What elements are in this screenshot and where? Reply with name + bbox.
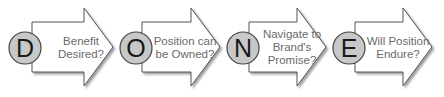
step-2-letter: O [120,32,152,64]
step-4-label-line-2: Endure? [362,48,434,61]
step-3-label-line-3: Promise? [257,54,327,67]
step-1-label-line-1: Benefit [50,35,112,48]
step-3-label: Navigate to Brand's Promise? [257,28,327,67]
step-4-label-line-1: Will Position [362,35,434,48]
step-1-label-line-2: Desired? [50,48,112,61]
done-process-diagram: D O N E Benefit Desired? Position can be… [0,0,444,97]
step-1-label: Benefit Desired? [50,35,112,61]
step-2-label-line-2: be Owned? [150,48,220,61]
step-2-label: Position can be Owned? [150,35,220,61]
step-3-label-line-2: Brand's [257,41,327,54]
step-3-letter: N [227,32,259,64]
step-4-letter: E [333,32,365,64]
step-1-letter: D [9,32,41,64]
step-3-label-line-1: Navigate to [257,28,327,41]
step-2-label-line-1: Position can [150,35,220,48]
step-4-label: Will Position Endure? [362,35,434,61]
